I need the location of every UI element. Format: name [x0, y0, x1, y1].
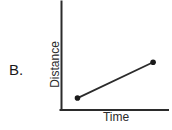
plot-area: [0, 0, 172, 130]
data-point-marker-end: [150, 59, 156, 65]
data-point-marker-start: [75, 95, 81, 101]
data-line-segment: [77, 62, 153, 98]
graph-figure: B. Distance Time: [0, 0, 172, 130]
